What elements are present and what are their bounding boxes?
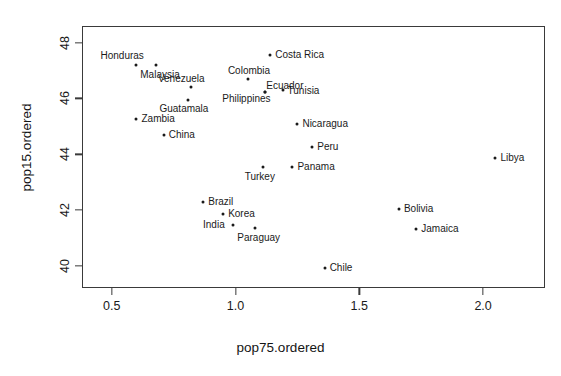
x-axis-tick-label: 1.0	[227, 299, 244, 313]
data-point	[254, 227, 257, 230]
data-point	[281, 89, 284, 92]
data-point-label: Honduras	[100, 50, 143, 61]
data-point-label: Philippines	[222, 93, 270, 104]
data-point	[246, 77, 249, 80]
data-point	[232, 224, 235, 227]
y-axis-tick-label: 46	[58, 92, 72, 106]
data-point-label: Turkey	[245, 171, 275, 182]
y-axis-tick	[75, 98, 82, 99]
y-axis-tick	[75, 265, 82, 266]
data-point-label: Tunisia	[288, 85, 320, 96]
data-point-label: Paraguay	[237, 232, 280, 243]
data-point-label: China	[169, 129, 195, 140]
data-point-label: Nicaragua	[302, 118, 348, 129]
x-axis-tick-label: 1.5	[351, 299, 368, 313]
y-axis-tick	[75, 154, 82, 155]
y-axis-tick	[75, 42, 82, 43]
data-point	[291, 165, 294, 168]
y-axis-tick-label: 42	[58, 203, 72, 217]
data-point	[135, 118, 138, 121]
data-point-label: India	[203, 219, 225, 230]
data-point	[296, 122, 299, 125]
data-point-label: Colombia	[228, 65, 270, 76]
x-axis-tick-label: 0.5	[103, 299, 120, 313]
data-point-label: Chile	[330, 262, 353, 273]
y-axis-tick-label: 44	[58, 147, 72, 161]
data-point-label: Guatamala	[159, 103, 208, 114]
data-point-label: Costa Rica	[275, 49, 324, 60]
data-point	[222, 213, 225, 216]
data-point-label: Panama	[297, 161, 334, 172]
y-axis-tick-label: 40	[58, 259, 72, 273]
data-point	[494, 157, 497, 160]
scatter-plot-figure: HondurasMalaysiaCosta RicaColombiaVenezu…	[0, 0, 561, 376]
x-axis-tick	[235, 288, 236, 295]
x-axis-tick	[359, 288, 360, 295]
data-point	[155, 64, 158, 67]
data-point-label: Jamaica	[421, 223, 458, 234]
data-point	[135, 64, 138, 67]
data-point	[162, 133, 165, 136]
x-axis-tick	[111, 288, 112, 295]
data-point	[323, 267, 326, 270]
data-point	[397, 207, 400, 210]
y-axis-title: pop15.ordered	[19, 88, 34, 208]
data-point-label: Venezuela	[158, 73, 205, 84]
data-point-label: Korea	[228, 208, 255, 219]
data-point	[189, 86, 192, 89]
data-point-label: Libya	[500, 152, 524, 163]
data-point-label: Zambia	[141, 113, 174, 124]
data-point	[202, 200, 205, 203]
data-point	[261, 165, 264, 168]
data-point	[187, 98, 190, 101]
x-axis-tick-label: 2.0	[474, 299, 491, 313]
data-point-label: Peru	[317, 141, 338, 152]
y-axis-tick-label: 48	[58, 36, 72, 50]
data-point	[269, 54, 272, 57]
data-point	[311, 146, 314, 149]
y-axis-tick	[75, 209, 82, 210]
data-point-label: Brazil	[208, 196, 233, 207]
x-axis-tick	[482, 288, 483, 295]
x-axis-title: pop75.ordered	[0, 340, 561, 355]
data-point-label: Bolivia	[404, 203, 433, 214]
data-point	[415, 228, 418, 231]
plot-data-area: HondurasMalaysiaCosta RicaColombiaVenezu…	[82, 26, 545, 288]
